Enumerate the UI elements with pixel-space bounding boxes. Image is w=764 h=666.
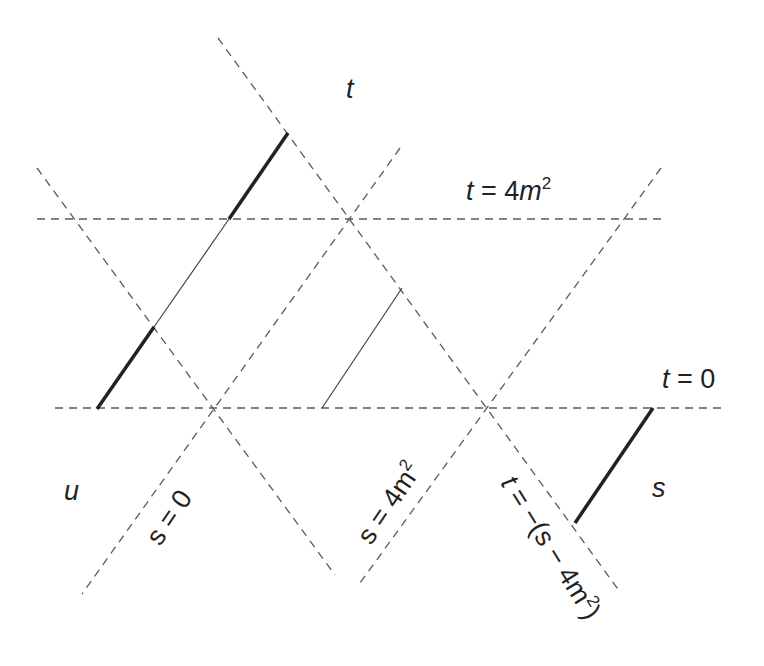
svg-text:s = 4m2: s = 4m2 [349, 456, 427, 550]
s-channel-cut-thick [575, 408, 653, 523]
s-equals-4m2-line [360, 168, 661, 583]
u-channel-cut-thick-lower [97, 327, 154, 409]
region-label-s: s [652, 473, 666, 503]
mandelstam-diagram: t u s t = 4m2 t = 0 s = 0 s = 4m2 t = −(… [0, 0, 764, 666]
label-t-equals-0: t = 0 [662, 364, 715, 394]
label-s-equals-0: s = 0 [140, 484, 198, 550]
u-boundary-upper-line [218, 38, 620, 592]
cut-segments [97, 133, 653, 523]
region-label-t: t [346, 74, 355, 104]
svg-text:s = 0: s = 0 [140, 484, 198, 550]
u-channel-cut-thin [154, 219, 229, 327]
label-t-equals-minus-s-minus-4m2: t = −(s − 4m2) [495, 469, 609, 624]
region-label-u: u [64, 476, 79, 506]
interior-thin-segment [322, 288, 402, 408]
svg-text:t = −(s − 4m2): t = −(s − 4m2) [495, 469, 609, 624]
s-equals-0-line [82, 148, 400, 594]
label-t-equals-4m2: t = 4m2 [466, 174, 551, 206]
t-channel-cut-thick [229, 133, 288, 219]
label-s-equals-4m2: s = 4m2 [349, 456, 427, 550]
